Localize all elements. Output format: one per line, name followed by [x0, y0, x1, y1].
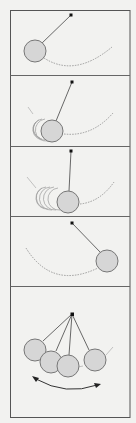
pendulum-bob: [96, 250, 118, 272]
swing-path-arc: [64, 113, 113, 134]
arrowhead-right-icon: [94, 383, 101, 388]
pendulum-bob: [41, 120, 63, 142]
pivot-point: [70, 14, 73, 17]
motion-ghost: [36, 188, 44, 208]
panel-1: [24, 14, 112, 66]
pendulum-rod: [43, 314, 72, 341]
motion-line: [28, 107, 33, 114]
motion-line: [27, 177, 36, 188]
pendulum-rod: [56, 82, 72, 121]
pendulum-rod: [72, 223, 101, 253]
pivot-point: [71, 222, 74, 225]
motion-ghost: [43, 187, 56, 210]
swing-path-arc: [26, 248, 98, 276]
pendulum-bob-position-4: [84, 349, 106, 371]
pivot-point: [71, 81, 74, 84]
panel-4: [26, 222, 118, 276]
swing-path-arc: [80, 182, 114, 204]
panel-5: [24, 313, 113, 390]
pendulum-bob: [24, 40, 46, 62]
pendulum-rod: [40, 15, 71, 45]
pivot-point: [70, 150, 73, 153]
panel-2: [28, 81, 113, 143]
pivot-point: [71, 313, 75, 317]
pendulum-rod: [69, 151, 71, 191]
pendulum-bob-position-3: [57, 355, 79, 377]
pendulum-bob: [57, 191, 79, 213]
panel-3: [27, 150, 114, 214]
pendulum-diagram: [0, 0, 136, 423]
arrowhead-left-icon: [32, 376, 39, 382]
pendulum-rod: [72, 314, 89, 350]
pendulum-figure: [0, 0, 136, 423]
swing-arrow-icon: [36, 379, 97, 389]
motion-line: [106, 347, 113, 355]
swing-path-arc: [44, 47, 112, 66]
